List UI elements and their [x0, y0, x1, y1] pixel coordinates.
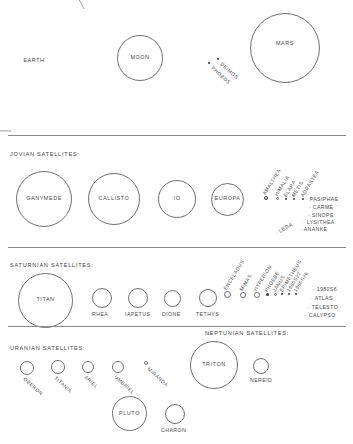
heading-uranian: URANIAN SATELLITES:: [10, 346, 85, 352]
moon-entry-lysithea: ·LYSITHEA: [303, 220, 335, 225]
moon-charon: [165, 404, 185, 424]
moon-entry-pasiphae: ·PASIPHAE: [306, 197, 339, 202]
moon-iapetus: [128, 288, 148, 308]
moon-umbriel: [112, 361, 124, 373]
moon-label-ariel: ARIEL: [83, 375, 99, 390]
moon-enceladus: [224, 291, 231, 298]
moon-miranda: [144, 361, 148, 365]
moon-ariel: [82, 361, 94, 373]
moon-label-mimas: MIMAS: [239, 274, 253, 292]
moon-entry-atlas: ·ATLAS: [311, 296, 333, 301]
moon-label-carme: CARME: [313, 204, 334, 210]
body-label-pluto: PLUTO: [119, 411, 140, 416]
bullet-dot: ·: [308, 304, 310, 310]
moon-label-dione: DIONE: [162, 312, 181, 317]
moon-marker-deimos: [217, 58, 219, 60]
moon-label-oberon: OBERON: [22, 377, 43, 397]
moon-label-nereid: NEREID: [250, 378, 272, 383]
moon-label-tethys: TETHYS: [196, 312, 219, 317]
moon-tethys: [199, 289, 217, 307]
moon-label-1980s6: 1980S6: [317, 286, 337, 292]
moon-label-pasiphae: PASIPHAE: [310, 196, 339, 202]
moon-titania: [51, 360, 65, 374]
moon-label-miranda: MIRANDA: [146, 367, 169, 388]
bullet-dot: ·: [313, 286, 315, 292]
moon-entry-leda: ·LEDA: [275, 222, 294, 236]
moon-1980s26: [295, 293, 297, 295]
moon-entry-calypso: ·CALYPSO: [305, 313, 336, 318]
bullet-dot: ·: [308, 212, 310, 218]
bullet-dot: ·: [306, 196, 308, 202]
moon-hyperion: [254, 292, 260, 298]
bullet-dot: ·: [305, 312, 307, 318]
body-mars: [250, 13, 320, 83]
divider-saturnian: [8, 247, 346, 248]
moon-entry-sinope: ·SINOPE: [308, 213, 334, 218]
moon-label-triton: TRITON: [202, 362, 226, 367]
moon-label-europa: EUROPA: [215, 196, 241, 201]
moon-epimetheus: [281, 293, 283, 295]
moon-label-callisto: CALLISTO: [99, 196, 130, 201]
body-label-mars: MARS: [276, 41, 294, 46]
moon-entry-carme: ·CARME: [309, 205, 333, 210]
moon-label-calypso: CALYPSO: [309, 312, 336, 318]
moon-label-lysithea: LYSITHEA: [307, 219, 335, 225]
bullet-dot: ·: [300, 226, 302, 232]
bullet-dot: ·: [303, 219, 305, 225]
moon-rhea: [92, 288, 112, 308]
moon-label-umbriel: UMBRIEL: [113, 375, 135, 395]
moon-label-ananke: ANANKE: [304, 226, 328, 232]
moon-marker-phobos: [208, 62, 210, 64]
moon-mimas: [240, 292, 246, 298]
moon-entry-telesto: ·TELESTO: [308, 305, 338, 310]
moon-janus: [274, 293, 277, 296]
heading-jovian: JOVIAN SATELLITES:: [10, 152, 80, 158]
moon-label-rhea: RHEA: [92, 312, 108, 317]
bullet-dot: ·: [311, 295, 313, 301]
body-label-earth: EARTH: [23, 58, 44, 63]
divider-uranian: [8, 326, 346, 327]
moon-oberon: [20, 361, 34, 375]
moon-label-titan: TITAN: [36, 297, 54, 302]
heading-saturnian: SATURNIAN SATELLITES:: [10, 263, 94, 269]
moon-nereid: [253, 358, 269, 374]
moon-entry-1980s6: ·1980S6: [313, 287, 337, 292]
moon-label-titania: TITANIA: [53, 376, 72, 394]
moon-label-io: IO: [174, 196, 181, 201]
body-label-moon: MOON: [130, 55, 149, 60]
moon-dione: [164, 290, 181, 307]
moon-label-leda: LEDA: [277, 221, 293, 234]
moon-label-telesto: TELESTO: [312, 304, 338, 310]
moon-label-sinope: SINOPE: [312, 212, 334, 218]
moon-1980s27: [288, 293, 290, 295]
moon-label-ganymede: GANYMEDE: [26, 196, 62, 201]
moon-label-charon: CHARON: [161, 428, 186, 433]
moon-label-iapetus: IAPETUS: [125, 312, 150, 317]
moon-entry-ananke: ·ANANKE: [300, 227, 327, 232]
moons-diagram: EARTH MOON MARS DEIMOS PHOBOS JOVIAN SAT…: [0, 0, 353, 444]
divider-jovian: [8, 135, 346, 136]
bullet-dot: ·: [309, 204, 311, 210]
moon-himalia: [276, 197, 279, 200]
moon-label-atlas: ATLAS: [315, 295, 333, 301]
heading-neptunian: NEPTUNIAN SATELLITES:: [205, 331, 289, 337]
moon-amalthea: [264, 196, 268, 200]
